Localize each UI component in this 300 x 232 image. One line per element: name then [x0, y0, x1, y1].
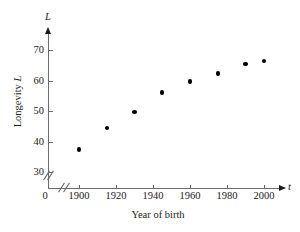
- x-axis-tick: [153, 185, 154, 189]
- x-axis-tick-label: 1920: [98, 191, 134, 202]
- y-axis-tick: [49, 81, 53, 82]
- data-point: [188, 79, 192, 83]
- y-axis-line: [48, 32, 49, 188]
- x-axis-title: Year of birth: [88, 209, 228, 220]
- data-point: [160, 90, 164, 94]
- data-point: [132, 110, 136, 114]
- x-axis-tick: [264, 185, 265, 189]
- y-axis-tick-label: 30: [18, 167, 44, 178]
- data-point: [216, 71, 220, 75]
- data-point: [262, 59, 266, 63]
- data-point: [243, 62, 247, 66]
- y-axis-variable-label: L: [41, 11, 55, 22]
- y-axis-tick: [49, 50, 53, 51]
- data-point: [105, 126, 109, 130]
- y-axis-tick: [49, 142, 53, 143]
- x-axis-variable-label: t: [288, 181, 291, 192]
- x-axis-tick-label: 2000: [246, 191, 282, 202]
- x-axis-tick: [116, 185, 117, 189]
- data-point: [77, 147, 81, 151]
- x-axis-tick-label: 1940: [135, 191, 171, 202]
- x-axis-tick: [190, 185, 191, 189]
- x-axis-tick-label: 1980: [209, 191, 245, 202]
- x-axis-tick: [227, 185, 228, 189]
- longevity-scatter-chart: L t 0 3040506070 19001920194019601980200…: [0, 0, 300, 232]
- y-axis-arrow-icon: [45, 27, 51, 34]
- x-axis-tick-label: 1960: [172, 191, 208, 202]
- y-axis-title: Longevity L: [12, 54, 23, 150]
- x-axis-tick: [79, 185, 80, 189]
- origin-label: 0: [38, 191, 52, 202]
- y-axis-tick: [49, 172, 53, 173]
- x-axis-tick-label: 1900: [61, 191, 97, 202]
- x-axis-line: [48, 188, 280, 189]
- y-axis-tick: [49, 111, 53, 112]
